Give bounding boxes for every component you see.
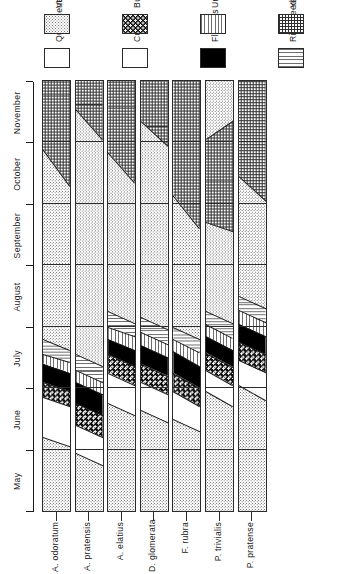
legend-swatch-ripe: [278, 48, 304, 68]
legend-swatch-fill: [123, 15, 147, 33]
legend-swatch-unripe: [200, 14, 226, 34]
legend-swatch-fill: [201, 49, 225, 67]
legend-swatch-buds: [122, 14, 148, 34]
legend-swatch-fill: [279, 49, 303, 67]
legend-label: Vegetative growth: [54, 0, 64, 8]
legend-swatch-flowers: [200, 48, 226, 68]
legend-swatch-fill: [123, 49, 147, 67]
legend-swatch-culms: [122, 48, 148, 68]
figure-root: MayJuneJulyAugustSeptemberOctoberNovembe…: [0, 0, 360, 574]
legend-swatch-fill: [279, 15, 303, 33]
legend-swatch-fill: [45, 49, 69, 67]
plot-rotation-wrapper: MayJuneJulyAugustSeptemberOctoberNovembe…: [0, 0, 360, 574]
legend-label: Unripe seeds: [210, 0, 220, 8]
legend-label: Buds: [132, 0, 142, 8]
legend-swatch-fill: [45, 15, 69, 33]
legend-swatch-yellow: [278, 14, 304, 34]
legend: QuiescentVegetative growthCulmsBudsFlowe…: [0, 0, 360, 574]
legend-swatch-fill: [201, 15, 225, 33]
legend-swatch-veg: [44, 14, 70, 34]
legend-label: Yellowing of leaves: [288, 0, 298, 8]
legend-swatch-quiescent: [44, 48, 70, 68]
